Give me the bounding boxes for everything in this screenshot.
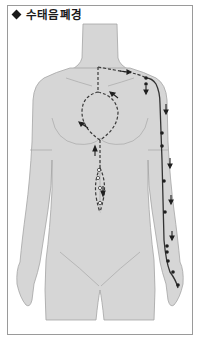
meridian-figure — [0, 0, 202, 343]
